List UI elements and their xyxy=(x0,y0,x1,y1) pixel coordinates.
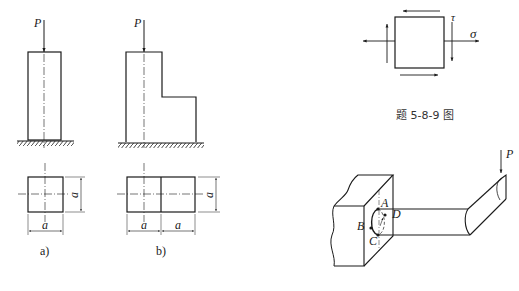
square-section xyxy=(28,177,63,212)
figure-b-caption: b) xyxy=(156,244,166,258)
point-D-label: D xyxy=(391,207,401,221)
normal-label: σ xyxy=(470,26,477,41)
figure-b-elevation: P xyxy=(118,16,204,148)
column-a xyxy=(28,52,61,140)
drawing-canvas: P a a a) P xyxy=(0,0,519,291)
figure-b-section: a a a b) xyxy=(117,163,220,258)
load-label: P xyxy=(133,16,142,30)
dim-width-right-label: a xyxy=(175,218,181,232)
load-label: P xyxy=(33,16,42,30)
dim-width-label: a xyxy=(42,218,48,232)
stepped-column-b xyxy=(126,52,196,142)
dim-height-label: a xyxy=(67,192,81,198)
load-label: P xyxy=(505,147,514,161)
ground-hatch xyxy=(17,141,74,146)
dim-height-label: a xyxy=(202,192,216,198)
shear-label: τ xyxy=(451,11,456,23)
dim-width-left-label: a xyxy=(141,218,147,232)
stress-element: τ σ 题 5-8-9 图 xyxy=(363,11,479,122)
point-A-label: A xyxy=(380,196,389,210)
point-B-label: B xyxy=(357,219,365,233)
figure-a-section: a a a) xyxy=(18,163,85,258)
figure-a-caption: a) xyxy=(40,244,49,258)
element-square xyxy=(395,17,444,68)
figure-caption: 题 5-8-9 图 xyxy=(396,109,454,122)
point-C-label: C xyxy=(369,234,378,248)
ground-hatch xyxy=(118,143,204,148)
figure-a-elevation: P xyxy=(17,16,74,148)
bent-bar-figure: P A B C D xyxy=(331,147,514,266)
